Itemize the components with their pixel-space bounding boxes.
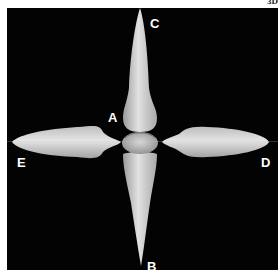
label-b: B	[147, 260, 156, 270]
tooth-view-b	[123, 152, 157, 266]
label-c: C	[150, 17, 159, 30]
label-d: D	[261, 156, 270, 169]
label-a: A	[108, 111, 117, 124]
tooth-figure-panel: C A E D B	[7, 8, 278, 270]
label-e: E	[17, 156, 26, 169]
corner-text-fragment: 3D	[267, 0, 278, 6]
scan-line	[7, 141, 278, 142]
tooth-view-e	[12, 126, 121, 158]
tooth-views-illustration	[7, 8, 278, 270]
tooth-view-d	[162, 127, 269, 157]
